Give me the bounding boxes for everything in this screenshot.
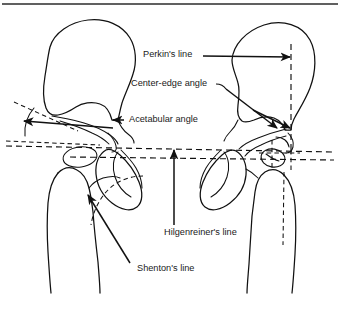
label-center-edge-angle: Center-edge angle xyxy=(131,78,207,88)
hip-measurement-figure: Perkin's line Center-edge angle Acetabul… xyxy=(0,0,340,314)
label-shentons-line: Shenton's line xyxy=(137,263,194,273)
perkins-line-leader-arrow xyxy=(203,56,290,57)
label-hilgenreiners-line: Hilgenreiner's line xyxy=(164,227,237,237)
label-acetabular-angle: Acetabular angle xyxy=(129,114,198,124)
label-perkins-line: Perkin's line xyxy=(143,49,192,59)
hip-diagram-canvas: Perkin's line Center-edge angle Acetabul… xyxy=(0,0,340,314)
